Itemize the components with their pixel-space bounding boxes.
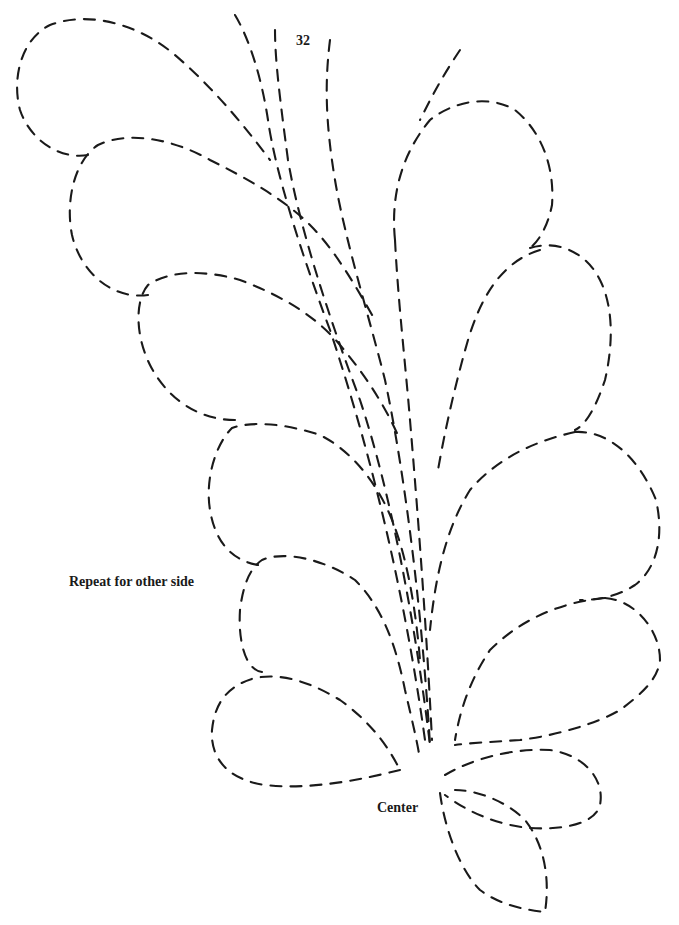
right-plume-4-inner	[455, 598, 605, 740]
spine-line-5	[395, 240, 432, 740]
repeat-for-other-side-label: Repeat for other side	[69, 574, 194, 590]
center-label: Center	[377, 800, 418, 816]
right-plume-3	[575, 432, 659, 600]
right-plume-3-inner	[430, 432, 575, 630]
left-plume-2	[70, 138, 375, 320]
right-plume-1	[394, 101, 552, 248]
left-plume-5	[240, 556, 420, 760]
center-plume-down	[440, 790, 547, 912]
right-plume-2	[530, 245, 611, 430]
right-plume-4	[455, 598, 660, 745]
right-plume-2-inner	[438, 250, 540, 470]
left-plume-3	[138, 273, 400, 440]
page-number: 32	[296, 33, 310, 49]
spine-line-4	[420, 50, 460, 120]
center-plume-right	[445, 750, 601, 829]
left-plume-6	[212, 677, 400, 787]
spine-line-1	[235, 15, 425, 740]
feather-pattern	[0, 0, 679, 925]
